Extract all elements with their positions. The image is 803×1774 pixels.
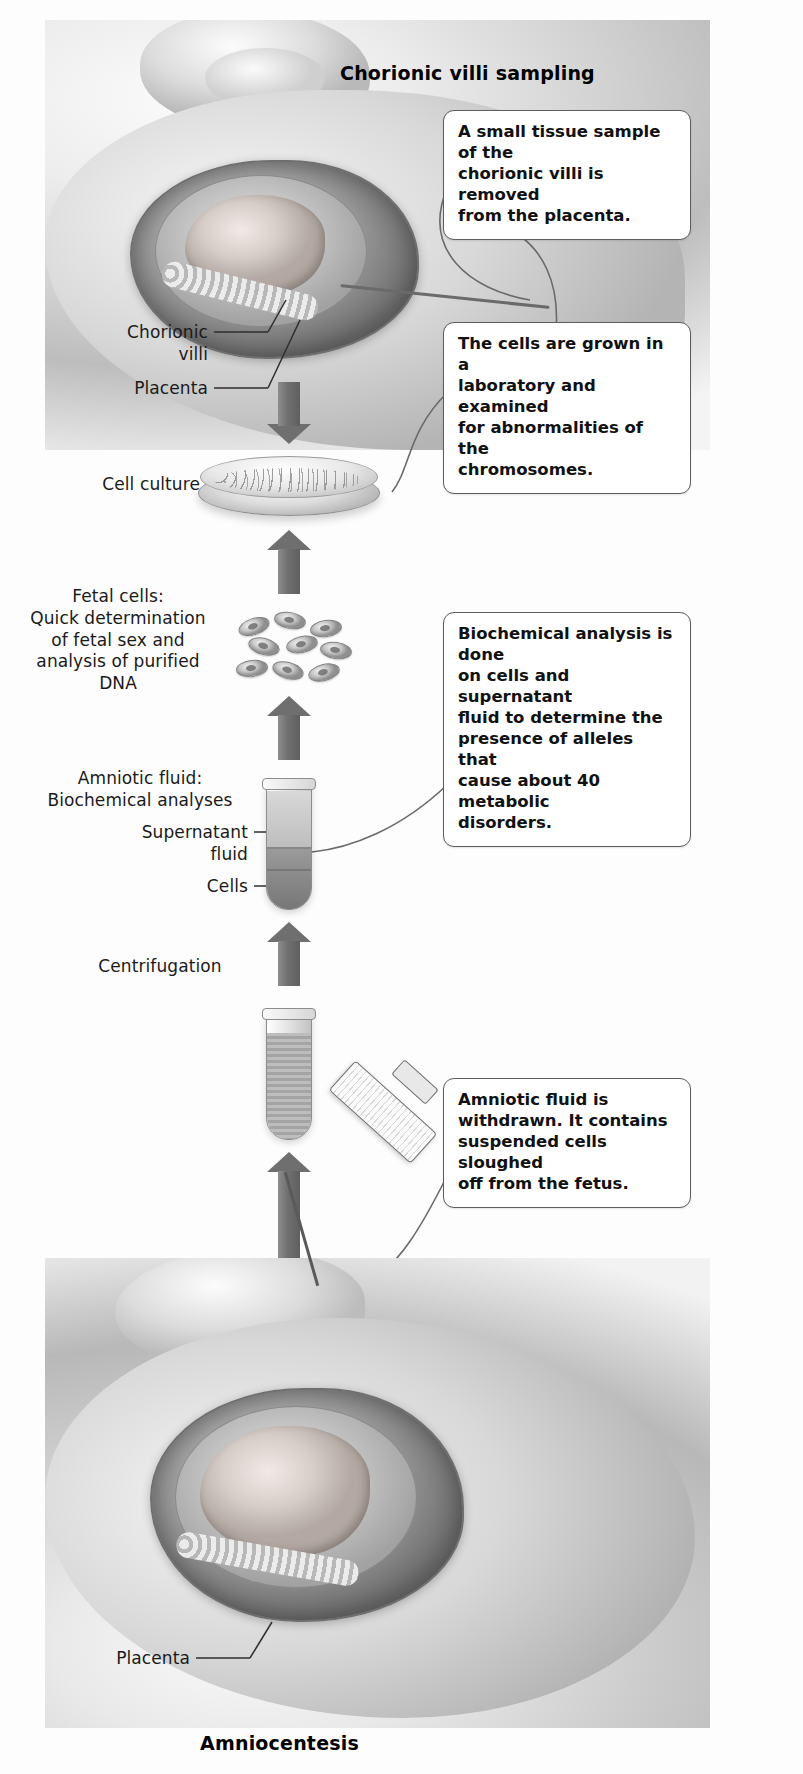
- callout-biochemical: Biochemical analysis is done on cells an…: [443, 612, 691, 847]
- label-fetal-cells: Fetal cells: Quick determination of feta…: [18, 586, 218, 695]
- prenatal-diagnosis-figure: Chorionic villi sampling Chorionic villi…: [0, 0, 803, 1774]
- label-cells: Cells: [128, 876, 248, 898]
- fetal-cell-cluster: [234, 612, 354, 684]
- arrow-tube-to-cells: [267, 696, 311, 760]
- arrow-centrifugation: [267, 922, 311, 986]
- arrow-cvs-to-culture: [267, 382, 311, 444]
- label-supernatant-fluid: Supernatant fluid: [118, 822, 248, 866]
- callout-amniotic-fluid: Amniotic fluid is withdrawn. It contains…: [443, 1078, 691, 1208]
- label-centrifugation: Centrifugation: [70, 956, 250, 978]
- top-title: Chorionic villi sampling: [340, 62, 595, 84]
- label-chorionic-villi: Chorionic villi: [88, 322, 208, 366]
- callout-cell-culture: The cells are grown in a laboratory and …: [443, 322, 691, 494]
- fetus-illustration-bottom: [200, 1426, 370, 1556]
- bottom-title: Amniocentesis: [200, 1732, 359, 1754]
- callout-cvs-sample: A small tissue sample of the chorionic v…: [443, 110, 691, 240]
- arrow-cells-to-culture: [267, 530, 311, 594]
- petri-dish: [198, 456, 380, 518]
- tube-lip-top: [262, 778, 316, 790]
- arrow-amnio-to-tube: [267, 1152, 311, 1270]
- label-placenta-bottom: Placenta: [70, 1648, 190, 1670]
- label-cell-culture: Cell culture: [80, 474, 200, 496]
- test-tube-separated: [266, 782, 312, 910]
- tube-lip-bottom: [262, 1008, 316, 1020]
- test-tube-unseparated: [266, 1012, 312, 1140]
- label-amniotic-fluid: Amniotic fluid: Biochemical analyses: [40, 768, 240, 812]
- label-placenta-top: Placenta: [88, 378, 208, 400]
